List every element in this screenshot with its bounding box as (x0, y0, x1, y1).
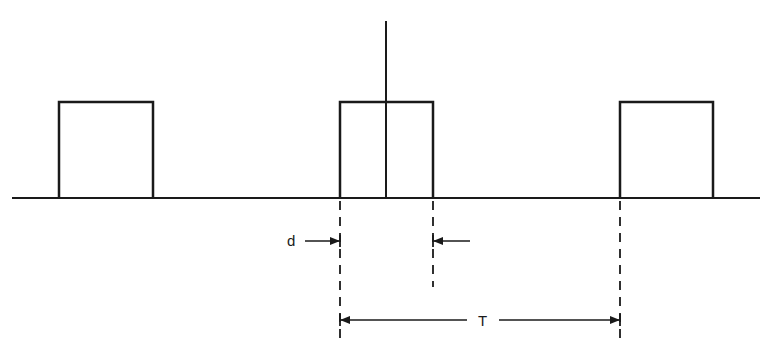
pulse-right (620, 102, 713, 198)
pulse-width-label: d (287, 232, 295, 249)
period-label: T (478, 312, 487, 329)
pulse-left (59, 102, 153, 198)
pulse-train-diagram: d T (0, 0, 775, 356)
